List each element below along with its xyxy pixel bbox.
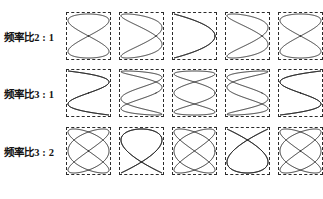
lissajous-curve-svg	[225, 69, 270, 117]
lissajous-cell	[225, 69, 270, 117]
lissajous-cell-group	[66, 66, 321, 124]
lissajous-row: 频率比3 : 2	[0, 124, 321, 182]
lissajous-curve-svg	[172, 127, 217, 175]
lissajous-curve	[68, 129, 109, 173]
lissajous-curve-svg	[278, 12, 323, 60]
lissajous-curve	[174, 14, 215, 58]
lissajous-cell	[66, 69, 111, 117]
lissajous-curve	[174, 129, 215, 173]
lissajous-curve-svg	[225, 12, 270, 60]
lissajous-curve-svg	[225, 127, 270, 175]
row-label-ratio-3-2: 频率比3 : 2	[4, 148, 54, 159]
lissajous-cell	[119, 127, 164, 175]
lissajous-curve	[121, 71, 162, 115]
lissajous-curve	[280, 71, 321, 115]
lissajous-curve	[121, 14, 162, 58]
lissajous-cell	[172, 69, 217, 117]
lissajous-curve	[227, 71, 268, 115]
lissajous-curve	[174, 71, 215, 115]
lissajous-cell	[225, 12, 270, 60]
lissajous-cell	[66, 12, 111, 60]
lissajous-cell	[278, 12, 323, 60]
lissajous-cell	[172, 12, 217, 60]
row-label-ratio-2-1: 频率比2 : 1	[4, 33, 54, 44]
lissajous-curve	[227, 14, 268, 58]
lissajous-curve-svg	[66, 127, 111, 175]
lissajous-curve-svg	[66, 69, 111, 117]
lissajous-curve-svg	[119, 127, 164, 175]
lissajous-row: 频率比2 : 1	[0, 9, 321, 67]
row-label-ratio-3-1: 频率比3 : 1	[4, 90, 54, 101]
lissajous-curve	[280, 14, 321, 58]
lissajous-curve-svg	[278, 69, 323, 117]
lissajous-row: 频率比3 : 1	[0, 66, 321, 124]
lissajous-curve-svg	[66, 12, 111, 60]
lissajous-curve-svg	[119, 12, 164, 60]
lissajous-cell-group	[66, 9, 321, 67]
lissajous-cell	[172, 127, 217, 175]
lissajous-cell	[119, 69, 164, 117]
lissajous-curve-svg	[119, 69, 164, 117]
lissajous-curve-svg	[172, 12, 217, 60]
lissajous-curve	[68, 14, 109, 58]
lissajous-curve	[68, 71, 109, 115]
lissajous-cell	[278, 127, 323, 175]
lissajous-cell	[119, 12, 164, 60]
lissajous-cell	[66, 127, 111, 175]
lissajous-cell	[278, 69, 323, 117]
lissajous-cell-group	[66, 124, 321, 182]
lissajous-curve-svg	[172, 69, 217, 117]
lissajous-cell	[225, 127, 270, 175]
lissajous-curve-svg	[278, 127, 323, 175]
lissajous-curve	[280, 129, 321, 173]
lissajous-curve	[121, 129, 162, 173]
lissajous-curve	[227, 129, 268, 173]
